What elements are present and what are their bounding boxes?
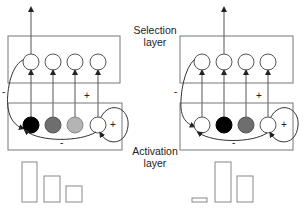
- right-panel: [180, 9, 298, 202]
- right-bar-1: [192, 198, 207, 202]
- right-selection-unit-2: [216, 54, 232, 70]
- left-bar-1: [22, 162, 37, 202]
- left-inhibitory-feedback-curve: [8, 60, 23, 128]
- right-minus-inner-sign: -: [232, 138, 235, 148]
- right-plus-upper-sign: +: [256, 91, 262, 101]
- left-minus-outer-sign: -: [2, 87, 5, 97]
- left-bar-2: [44, 176, 60, 202]
- selection-label-line2: layer: [124, 36, 186, 48]
- right-bar-2: [215, 162, 231, 202]
- left-activation-unit-1: [23, 117, 39, 133]
- right-minus-outer-sign: -: [174, 87, 177, 97]
- right-selection-unit-1: [194, 54, 210, 70]
- right-activation-unit-4: [260, 117, 276, 133]
- left-selection-unit-1: [23, 54, 39, 70]
- left-activation-unit-2: [45, 117, 61, 133]
- right-selection-unit-4: [260, 54, 276, 70]
- right-activation-unit-3: [238, 117, 254, 133]
- selection-label-line1: Selection: [124, 24, 186, 36]
- left-panel: [8, 9, 129, 202]
- selection-layer-label: Selection layer: [124, 24, 186, 48]
- right-bar-3: [237, 176, 253, 202]
- right-activation-unit-2: [216, 117, 232, 133]
- left-selection-unit-2: [45, 54, 61, 70]
- left-selection-unit-4: [90, 54, 106, 70]
- right-plus-self-sign: +: [281, 120, 287, 130]
- left-activation-unit-3: [67, 117, 83, 133]
- activation-layer-label: Activation layer: [123, 145, 187, 169]
- left-selection-unit-3: [67, 54, 83, 70]
- left-minus-inner-sign: -: [60, 138, 63, 148]
- activation-label-line2: layer: [123, 157, 187, 169]
- right-activation-unit-1: [194, 117, 210, 133]
- left-activation-unit-4: [90, 117, 106, 133]
- left-plus-upper-sign: +: [84, 91, 90, 101]
- right-inhibitory-feedback-curve: [181, 59, 195, 126]
- right-selection-unit-3: [238, 54, 254, 70]
- left-plus-self-sign: +: [110, 120, 116, 130]
- left-bar-3: [66, 186, 82, 202]
- activation-label-line1: Activation: [123, 145, 187, 157]
